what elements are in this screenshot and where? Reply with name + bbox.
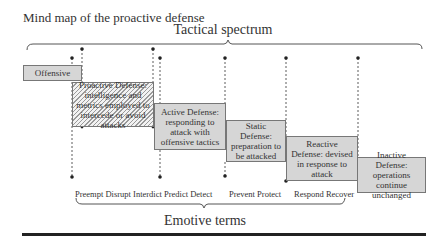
node-inactive-defense: Inactive Defense: operations continue un… [357,157,426,193]
node-static-defense-label: Static Defense: preparation to be attack… [230,121,282,161]
top-brace [27,40,422,50]
emotive-terms-group-3: Respond Recover [294,189,354,199]
emotive-terms-group-1: Preempt Disrupt Interdict Predict Detect [75,189,212,199]
node-proactive-defense-label: Proactive Defense: intelligence and metr… [76,80,150,130]
bottom-brace [76,198,345,208]
bottom-rule [22,233,426,236]
node-active-defense: Active Defense: responding to attack wit… [154,103,226,150]
node-offensive-label: Offensive [35,68,70,78]
node-reactive-defense-label: Reactive Defense: devised in response to… [290,139,354,179]
emotive-terms-label: Emotive terms [140,213,270,229]
node-static-defense: Static Defense: preparation to be attack… [226,120,286,162]
node-offensive: Offensive [23,65,82,81]
node-reactive-defense: Reactive Defense: devised in response to… [286,136,358,181]
node-active-defense-label: Active Defense: responding to attack wit… [158,107,222,147]
emotive-terms-group-2: Prevent Protect [229,189,281,199]
node-proactive-defense: Proactive Defense: intelligence and metr… [72,82,154,127]
node-inactive-defense-label: Inactive Defense: operations continue un… [361,150,422,200]
